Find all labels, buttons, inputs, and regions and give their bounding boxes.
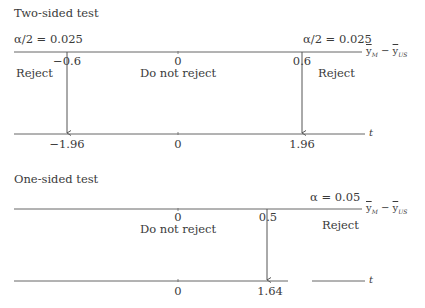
two-sided-t-axis-label: t <box>369 128 373 138</box>
two-sided-do-not-reject: Do not reject <box>140 68 216 80</box>
ybar-us-subscript: US <box>398 51 407 58</box>
one-sided-title: One-sided test <box>14 174 98 186</box>
one-sided-reject-right: Reject <box>322 220 359 232</box>
two-sided-title: Two-sided test <box>14 8 99 20</box>
one-sided-alpha-right: α = 0.05 <box>310 192 360 204</box>
minus-sign: − <box>381 202 389 213</box>
one-sided-t-axis-label: t <box>369 275 373 285</box>
minus-sign: − <box>381 45 389 56</box>
two-sided-t-tick-pos: 1.96 <box>289 139 315 151</box>
ybar-us-subscript: US <box>398 208 407 215</box>
ybar-m-subscript: M <box>372 51 378 58</box>
two-sided-t-tick-zero: 0 <box>174 139 181 151</box>
ybar-m-subscript: M <box>372 208 378 215</box>
two-sided-t-tick-neg: −1.96 <box>49 139 84 151</box>
two-sided-alpha-right: α/2 = 0.025 <box>303 34 372 46</box>
diagram-lines <box>0 0 425 308</box>
one-sided-t-tick-pos: 1.64 <box>257 286 283 298</box>
two-sided-top-tick-label-neg: −0.6 <box>53 56 81 68</box>
two-sided-top-axis-label: yM − yUS <box>366 46 407 58</box>
one-sided-t-tick-zero: 0 <box>174 286 181 298</box>
two-sided-reject-left: Reject <box>16 68 53 80</box>
two-sided-top-tick-label-pos: 0.6 <box>293 56 311 68</box>
one-sided-top-axis-label: yM − yUS <box>366 203 407 215</box>
two-sided-reject-right: Reject <box>318 68 355 80</box>
one-sided-top-tick-label-pos: 0.5 <box>259 212 277 224</box>
one-sided-do-not-reject: Do not reject <box>140 224 216 236</box>
two-sided-alpha-left: α/2 = 0.025 <box>14 34 83 46</box>
